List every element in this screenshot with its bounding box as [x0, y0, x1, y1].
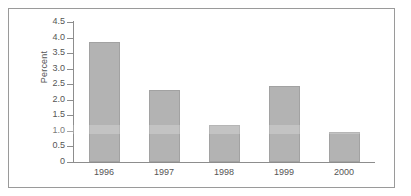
y-axis-tick-labels: 4.54.03.53.02.52.01.51.00.50 [33, 0, 65, 196]
y-axis-tick-label: 4.0 [37, 33, 65, 42]
bar-1997 [149, 90, 180, 162]
y-axis-tick-label: 4.5 [37, 17, 65, 26]
x-axis-tick-label: 1998 [194, 167, 254, 177]
y-axis-tick-label: 2.5 [37, 79, 65, 88]
x-axis-tick-label: 1997 [134, 167, 194, 177]
chart-figure: Percent 4.54.03.53.02.52.01.51.00.50 199… [0, 0, 411, 196]
bar-1998 [209, 125, 240, 162]
y-axis-tick-label: 0 [37, 157, 65, 166]
bar-1999 [269, 86, 300, 162]
y-axis-tick-label: 3.5 [37, 48, 65, 57]
x-axis-tick-label: 1996 [74, 167, 134, 177]
x-axis-tick-label: 1999 [254, 167, 314, 177]
y-axis-tick-label: 1.0 [37, 126, 65, 135]
x-axis-tick-label: 2000 [314, 167, 374, 177]
y-axis-tick-label: 3.0 [37, 64, 65, 73]
bar-2000 [329, 132, 360, 162]
y-axis-tick-label: 1.5 [37, 110, 65, 119]
y-axis-tick-label: 2.0 [37, 95, 65, 104]
y-axis-tick-label: 0.5 [37, 141, 65, 150]
bar-1996 [89, 42, 120, 162]
x-axis-line [73, 162, 375, 163]
y-axis-line [73, 21, 74, 163]
